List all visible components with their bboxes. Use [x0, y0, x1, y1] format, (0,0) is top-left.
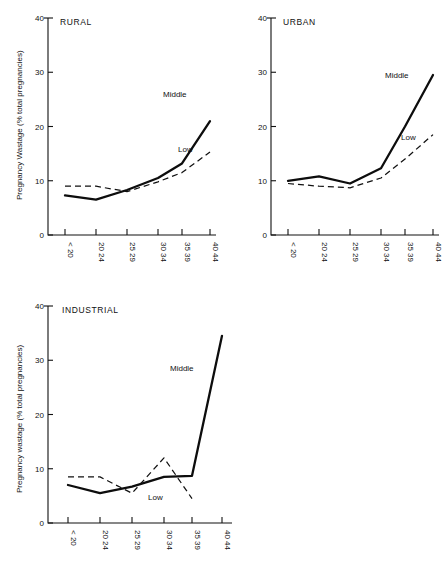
industrial-xlabel-3: 30 34 — [165, 530, 174, 551]
industrial-xlabel-2: 25 29 — [133, 530, 142, 551]
urban-xlabel-0: < 20 — [289, 242, 298, 258]
rural-xlabel-0: < 20 — [66, 242, 75, 258]
rural-xlabel-5: 40 44 — [211, 242, 220, 263]
rural-panel-title: RURAL — [60, 17, 92, 27]
industrial-xlabel-1: 20 24 — [101, 530, 110, 551]
panel-urban: 0 10 20 30 40 < 20 20 24 25 29 30 34 35 … — [223, 0, 447, 288]
rural-xlabel-1: 20 24 — [97, 242, 106, 263]
urban-xlabel-1: 20 24 — [320, 242, 329, 263]
urban-panel-title: URBAN — [283, 17, 316, 27]
urban-chart-svg: 0 10 20 30 40 < 20 20 24 25 29 30 34 35 … — [223, 0, 447, 288]
rural-ylabel-10: 10 — [35, 177, 44, 186]
urban-xlabel-2: 25 29 — [351, 242, 360, 263]
urban-label-middle: Middle — [385, 71, 409, 80]
urban-xlabel-5: 40 44 — [434, 242, 443, 263]
industrial-panel-title: INDUSTRIAL — [62, 305, 119, 315]
industrial-xlabel-0: < 20 — [69, 530, 78, 546]
figure-root: 0 10 20 30 40 < 20 20 24 25 29 30 34 35 … — [0, 0, 447, 576]
industrial-ylabel-20: 20 — [35, 411, 44, 420]
rural-label-low: Low — [178, 145, 193, 154]
panel-rural: 0 10 20 30 40 < 20 20 24 25 29 30 34 35 … — [0, 0, 224, 288]
industrial-y-axis-title: Pregnancy wastage (% total pregnancies) — [15, 345, 24, 493]
industrial-ylabel-30: 30 — [35, 356, 44, 365]
rural-xlabel-3: 30 34 — [159, 242, 168, 263]
industrial-ylabel-0: 0 — [40, 519, 45, 528]
urban-ylabel-30: 30 — [258, 68, 267, 77]
industrial-label-low: Low — [148, 493, 163, 502]
industrial-ylabel-10: 10 — [35, 465, 44, 474]
rural-chart-svg: 0 10 20 30 40 < 20 20 24 25 29 30 34 35 … — [0, 0, 224, 288]
rural-ylabel-30: 30 — [35, 68, 44, 77]
rural-xlabel-2: 25 29 — [128, 242, 137, 263]
rural-ylabel-40: 40 — [35, 14, 44, 23]
industrial-xlabel-5: 40 44 — [223, 530, 232, 551]
industrial-xlabel-4: 35 39 — [193, 530, 202, 551]
panel-industrial: 0 10 20 30 40 < 20 20 24 25 29 30 34 35 … — [0, 288, 240, 576]
rural-label-middle: Middle — [163, 90, 187, 99]
rural-axes — [48, 18, 216, 235]
urban-xlabel-3: 30 34 — [382, 242, 391, 263]
urban-series-middle — [288, 75, 433, 184]
rural-y-axis-title: Pregnancy Wastage (% total pregnancies) — [15, 50, 24, 200]
rural-ylabel-20: 20 — [35, 123, 44, 132]
urban-series-low — [288, 135, 433, 188]
industrial-chart-svg: 0 10 20 30 40 < 20 20 24 25 29 30 34 35 … — [0, 288, 240, 576]
urban-ylabel-40: 40 — [258, 14, 267, 23]
urban-xlabel-4: 35 39 — [406, 242, 415, 263]
rural-ylabel-0: 0 — [40, 231, 45, 240]
industrial-ylabel-40: 40 — [35, 302, 44, 311]
urban-ylabel-10: 10 — [258, 177, 267, 186]
urban-label-low: Low — [401, 133, 416, 142]
industrial-series-middle — [68, 336, 222, 493]
industrial-label-middle: Middle — [170, 364, 194, 373]
urban-ylabel-0: 0 — [263, 231, 268, 240]
urban-axes — [271, 18, 439, 235]
urban-ylabel-20: 20 — [258, 123, 267, 132]
rural-xlabel-4: 35 39 — [183, 242, 192, 263]
industrial-series-low — [68, 458, 192, 499]
